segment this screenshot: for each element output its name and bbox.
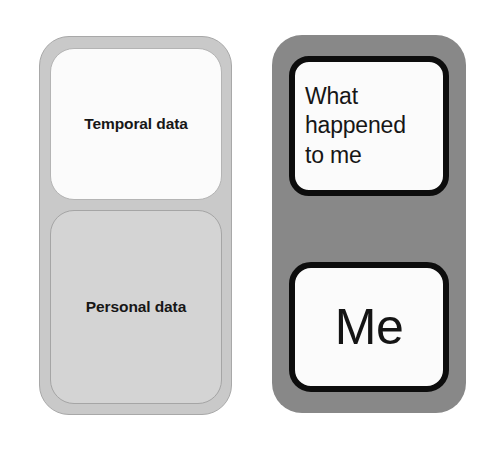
what-happened-line-3: to me [305,141,406,170]
diagram-canvas: Temporal data Personal data What happene… [0,0,502,458]
me-label: Me [335,302,403,352]
temporal-data-label: Temporal data [84,115,188,132]
me-box[interactable]: Me [289,262,449,392]
what-happened-line-1: What [305,82,406,111]
temporal-data-box[interactable]: Temporal data [50,48,222,200]
plain-language-group: What happened to me Me [272,35,466,413]
what-happened-to-me-label: What happened to me [305,82,406,170]
technical-terms-group: Temporal data Personal data [39,36,232,415]
what-happened-line-2: happened [305,111,406,140]
personal-data-box[interactable]: Personal data [50,210,222,404]
what-happened-to-me-box[interactable]: What happened to me [289,56,449,196]
personal-data-label: Personal data [86,298,186,315]
